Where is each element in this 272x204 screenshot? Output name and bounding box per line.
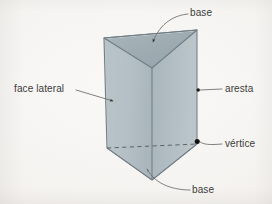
- label-aresta: aresta: [225, 83, 253, 94]
- label-face-lateral: face lateral: [14, 83, 64, 94]
- vertice-marker-dot: [195, 139, 200, 144]
- label-vertice: vértice: [225, 138, 255, 149]
- label-base-top: base: [190, 7, 212, 18]
- leader-aresta: [200, 89, 222, 90]
- prism-illustration: [0, 0, 272, 204]
- leader-vertice: [199, 141, 222, 145]
- aresta-edge-marker-dot: [197, 88, 200, 91]
- diagram-canvas: base face lateral aresta vértice base: [0, 0, 272, 204]
- prism-solid: [104, 30, 197, 180]
- label-base-bottom: base: [192, 184, 214, 195]
